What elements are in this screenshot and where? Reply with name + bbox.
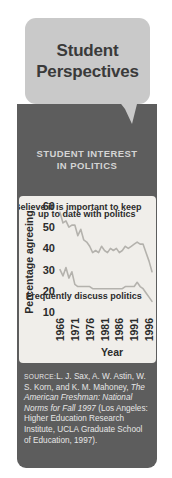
series-annotation: up to date with politics [38, 209, 136, 219]
y-tick-label: 50 [43, 221, 55, 233]
student-perspectives-figure: Student Perspectives STUDENT INTEREST IN… [0, 0, 172, 478]
x-tick-label: 1981 [99, 318, 111, 342]
title-speech-bubble: Student Perspectives [25, 18, 150, 104]
x-tick-label: 1966 [54, 318, 66, 342]
source-label: SOURCE: [24, 373, 56, 380]
x-tick-label: 1986 [113, 318, 125, 342]
x-axis-label: Year [101, 346, 123, 358]
chart-card: 605040302010Percentage agreeing196619711… [19, 196, 156, 363]
page-title-line2: Perspectives [36, 61, 139, 82]
subtitle-line1: STUDENT INTEREST [17, 148, 157, 160]
series-annotation: Frequently discuss politics [26, 291, 142, 301]
y-tick-label: 30 [43, 264, 55, 276]
y-tick-label: 10 [43, 306, 55, 318]
line-chart: 605040302010Percentage agreeing196619711… [19, 196, 156, 363]
source-citation: SOURCE:L. J. Sax, A. W. Astin, W. S. Kor… [24, 372, 150, 446]
x-tick-label: 1991 [128, 318, 140, 342]
series-line [60, 212, 152, 271]
x-tick-label: 1971 [69, 318, 81, 342]
x-tick-label: 1976 [84, 318, 96, 342]
x-tick-label: 1996 [143, 318, 155, 342]
page-title-line1: Student [57, 40, 119, 61]
subtitle: STUDENT INTEREST IN POLITICS [17, 148, 157, 172]
subtitle-line2: IN POLITICS [17, 160, 157, 172]
y-tick-label: 40 [43, 242, 55, 254]
